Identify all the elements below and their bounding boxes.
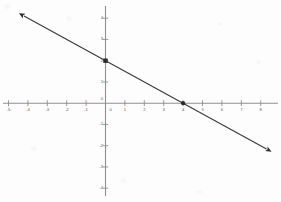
x-tick-label: 8 (260, 108, 262, 112)
x-tick-label: 0 (109, 108, 111, 112)
function-line (24, 16, 267, 149)
plot-svg (0, 0, 281, 202)
x-tick-label: 5 (201, 108, 203, 112)
x-tick-label: 4 (182, 108, 184, 112)
x-tick-label: 2 (143, 108, 145, 112)
coordinate-plane-graph: -5 -4 -3 -2 -1 0 1 2 3 4 5 6 7 8 4 3 2 1… (0, 0, 281, 202)
x-axis-group (3, 100, 278, 106)
x-tick-label: 3 (163, 108, 165, 112)
y-tick-label: 3 (96, 37, 103, 41)
y-tick-label: 0 (96, 96, 103, 100)
x-tick-label: -5 (7, 108, 11, 112)
x-tick-label: -2 (65, 108, 69, 112)
x-tick-label: -1 (84, 108, 88, 112)
x-tick-label: -3 (46, 108, 50, 112)
x-tick-label: 6 (221, 108, 223, 112)
y-tick-label: -1 (94, 122, 103, 126)
x-tick-label: -4 (26, 108, 30, 112)
x-tick-label: 1 (124, 108, 126, 112)
y-axis-group (103, 6, 108, 196)
y-intercept-point (103, 59, 107, 63)
y-tick-label: -3 (94, 165, 103, 169)
y-tick-label: 1 (96, 80, 103, 84)
y-tick-label: 4 (96, 16, 103, 20)
y-tick-label: -4 (94, 186, 103, 190)
x-intercept-point (181, 101, 185, 105)
x-tick-label: 7 (240, 108, 242, 112)
y-tick-label: -2 (94, 144, 103, 148)
y-tick-label: 2 (96, 59, 103, 63)
